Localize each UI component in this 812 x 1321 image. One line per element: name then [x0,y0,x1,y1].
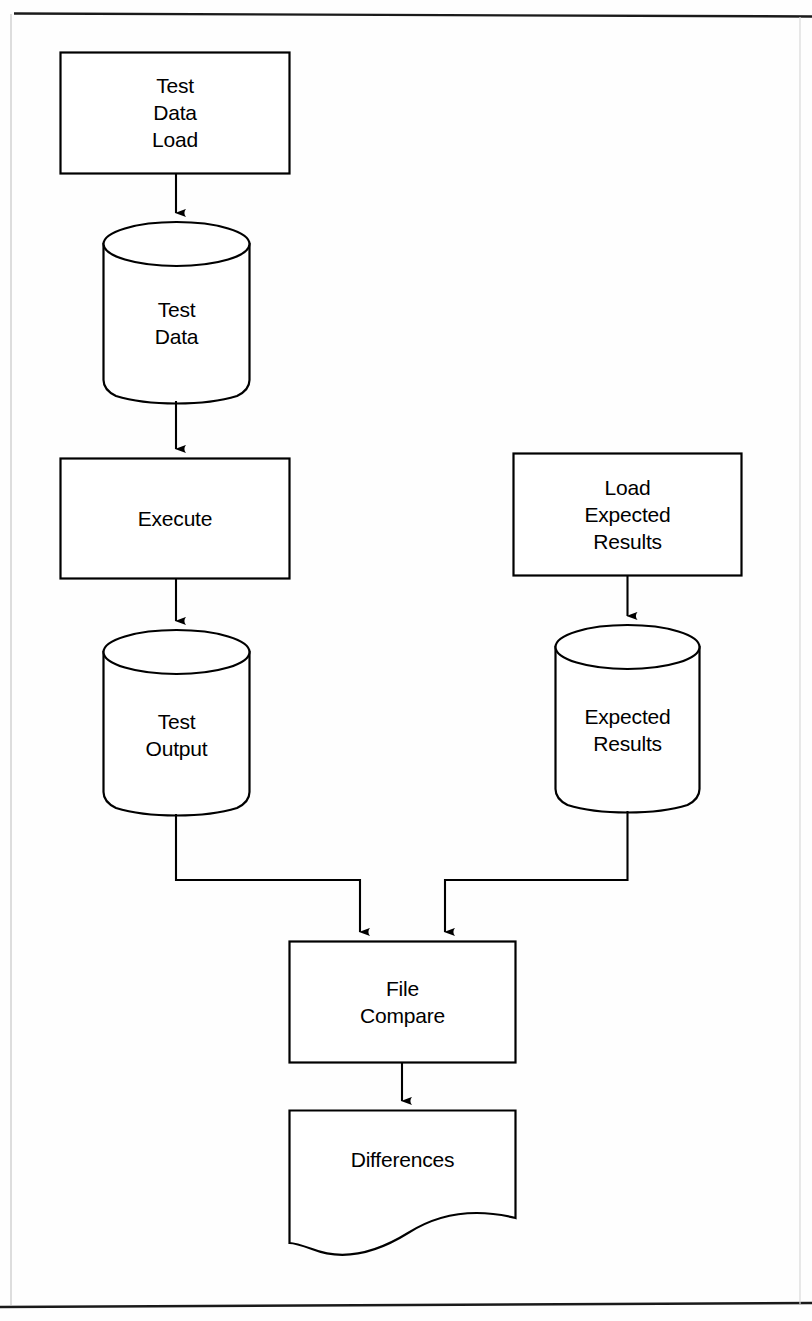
edge-test-output-to-file-compare [176,814,360,932]
page-border-bottom [0,1303,812,1307]
node-hit-test-data-load[interactable] [60,52,290,174]
node-hit-differences[interactable] [289,1110,516,1266]
node-hit-test-data[interactable] [103,222,250,404]
node-hit-test-output[interactable] [103,630,250,816]
page-border-top [14,14,812,17]
node-hit-file-compare[interactable] [289,941,516,1063]
node-hit-expected-results[interactable] [555,625,700,813]
node-hit-load-expected-results[interactable] [513,453,742,576]
edge-expected-results-to-file-compare [445,811,628,932]
node-hit-execute[interactable] [60,458,290,579]
diagram-page: Test Data Load Test Data Execute Load Ex… [0,0,812,1321]
